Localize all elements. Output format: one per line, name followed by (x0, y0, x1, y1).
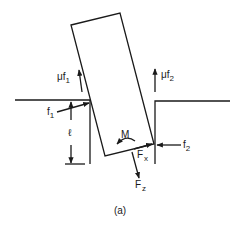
f2-label: f2 (183, 139, 191, 153)
f1-label: f1 (47, 106, 55, 120)
right-surface-and-wall (155, 101, 230, 164)
f1-arrow-icon (57, 103, 89, 112)
moment-label: M (121, 129, 129, 140)
fx-label: Fx (137, 149, 148, 163)
mu-f2-label: μf2 (161, 69, 175, 83)
ell-label: ℓ (68, 127, 72, 138)
left-surface-and-wall (15, 100, 90, 164)
mu-f1-label: μf1 (57, 71, 71, 85)
figure-caption: (a) (114, 205, 126, 216)
mu-f1-arrow-icon (79, 70, 82, 92)
fz-label: Fz (135, 179, 146, 193)
peg-in-hole-force-diagram: μf1 μf2 f1 f2 ℓ M Fx Fz (a) (0, 0, 240, 228)
tilted-peg (71, 13, 154, 156)
